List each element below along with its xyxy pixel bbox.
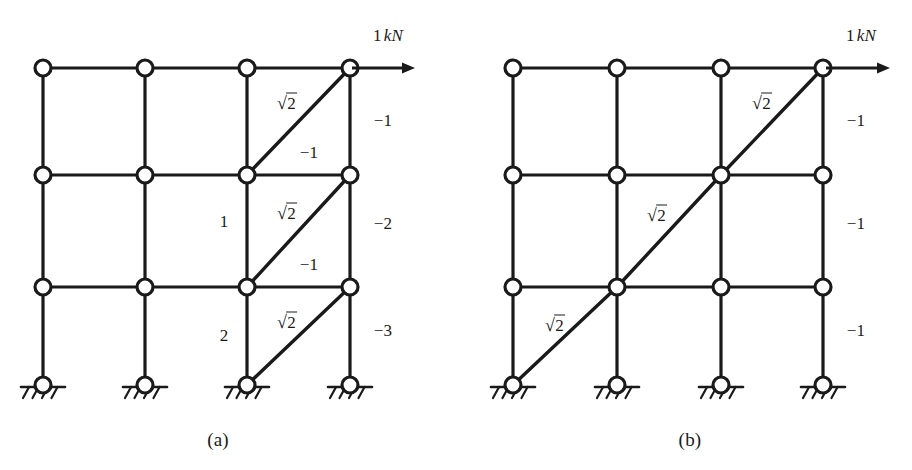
column-force-label-b-3: −1 (847, 111, 866, 131)
diagonal-force-label-a-1: √2 (277, 203, 297, 224)
radicand-value: 2 (656, 205, 667, 225)
diagonal-force-label-a-2: √2 (277, 312, 297, 333)
support-hatch-a-12-0 (23, 387, 29, 398)
diagonal-brace-b-1 (617, 175, 721, 287)
sqrt-symbol: √2 (277, 312, 297, 333)
support-node-b-15 (815, 377, 831, 393)
diagonal-brace-b-0 (513, 287, 617, 385)
load-label-b: 1kN (846, 26, 876, 46)
support-hatch-a-15-3 (359, 387, 365, 398)
joint-node-b-9 (609, 279, 625, 295)
joint-node-b-1 (609, 60, 625, 76)
panel-caption-a: (a) (207, 429, 229, 451)
joint-node-b-0 (505, 60, 521, 76)
load-unit-a: kN (382, 26, 403, 45)
column-force-label-a-7: −1 (374, 111, 393, 131)
support-node-a-15 (342, 377, 358, 393)
joint-node-b-2 (713, 60, 729, 76)
column-force-label-a-9: −3 (374, 321, 393, 341)
beam-force-label-a-4: −1 (300, 255, 319, 275)
support-hatch-a-12-3 (52, 387, 58, 398)
support-node-a-13 (137, 377, 153, 393)
column-force-label-a-6: 2 (220, 326, 229, 346)
load-arrow-head-b (877, 63, 890, 74)
joint-node-a-8 (35, 279, 51, 295)
load-arrow-head-a (402, 63, 415, 74)
support-node-b-13 (609, 377, 625, 393)
frame-diagram-svg (0, 0, 912, 470)
column-force-label-a-5: 1 (220, 212, 229, 232)
joint-node-b-5 (609, 167, 625, 183)
support-hatch-b-13-0 (597, 387, 603, 398)
support-hatch-a-14-3 (256, 387, 262, 398)
load-unit-b: kN (855, 26, 876, 45)
diagonal-brace-a-0 (247, 68, 350, 175)
radicand-value: 2 (554, 315, 565, 335)
sqrt-symbol: √2 (277, 93, 297, 114)
support-node-a-14 (239, 377, 255, 393)
joint-node-b-10 (713, 279, 729, 295)
joint-node-a-9 (137, 279, 153, 295)
radicand-value: 2 (286, 203, 297, 223)
joint-node-a-1 (137, 60, 153, 76)
support-hatch-a-15-0 (330, 387, 336, 398)
joint-node-a-2 (239, 60, 255, 76)
support-hatch-b-12-3 (522, 387, 528, 398)
support-hatch-b-14-3 (730, 387, 736, 398)
panel-caption-b: (b) (679, 429, 702, 451)
column-force-label-b-4: −1 (847, 214, 866, 234)
radicand-value: 2 (761, 93, 772, 113)
support-hatch-a-13-0 (125, 387, 131, 398)
joint-node-b-6 (713, 167, 729, 183)
column-force-label-a-8: −2 (374, 214, 393, 234)
support-node-b-12 (505, 377, 521, 393)
radicand-value: 2 (286, 312, 297, 332)
sqrt-symbol: √2 (752, 93, 772, 114)
sqrt-symbol: √2 (545, 315, 565, 336)
column-force-label-b-5: −1 (847, 321, 866, 341)
joint-node-a-6 (239, 167, 255, 183)
joint-node-a-5 (137, 167, 153, 183)
joint-node-a-0 (35, 60, 51, 76)
support-hatch-b-13-3 (626, 387, 632, 398)
diagonal-force-label-b-2: √2 (752, 93, 772, 114)
joint-node-a-10 (239, 279, 255, 295)
support-node-a-12 (35, 377, 51, 393)
joint-node-b-8 (505, 279, 521, 295)
joint-node-a-4 (35, 167, 51, 183)
load-value-b: 1 (846, 26, 855, 45)
load-value-a: 1 (373, 26, 382, 45)
joint-node-a-7 (342, 167, 358, 183)
support-node-b-14 (713, 377, 729, 393)
figure-container: 1kN√2√2√2−1−112−1−2−3(a)1kN√2√2√2−1−1−1(… (0, 0, 912, 470)
diagonal-force-label-b-1: √2 (647, 205, 667, 226)
support-hatch-a-14-0 (227, 387, 233, 398)
support-hatch-b-14-0 (701, 387, 707, 398)
panel-b-geometry (491, 60, 890, 398)
support-hatch-b-12-0 (493, 387, 499, 398)
sqrt-symbol: √2 (277, 203, 297, 224)
diagonal-force-label-b-0: √2 (545, 315, 565, 336)
diagonal-force-label-a-0: √2 (277, 93, 297, 114)
joint-node-b-7 (815, 167, 831, 183)
diagonal-brace-b-2 (721, 68, 823, 175)
diagonal-brace-a-1 (247, 175, 350, 287)
load-label-a: 1kN (373, 26, 403, 46)
sqrt-symbol: √2 (647, 205, 667, 226)
support-hatch-a-13-3 (154, 387, 160, 398)
radicand-value: 2 (286, 93, 297, 113)
support-hatch-b-15-0 (803, 387, 809, 398)
panel-a-geometry (21, 60, 415, 398)
support-hatch-b-15-3 (832, 387, 838, 398)
joint-node-a-11 (342, 279, 358, 295)
diagonal-brace-a-2 (247, 287, 350, 385)
joint-node-b-4 (505, 167, 521, 183)
beam-force-label-a-3: −1 (300, 143, 319, 163)
joint-node-b-11 (815, 279, 831, 295)
